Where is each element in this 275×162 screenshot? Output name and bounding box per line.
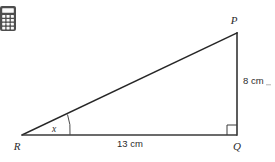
angle-arc-R bbox=[68, 115, 71, 136]
angle-label-x: x bbox=[51, 124, 57, 134]
diagram-canvas: P Q R x 8 cm 13 cm bbox=[0, 0, 275, 162]
triangle-hypotenuse-RP bbox=[22, 33, 237, 135]
vertex-label-p: P bbox=[230, 14, 238, 26]
vertex-label-q: Q bbox=[233, 140, 241, 152]
edge-tick-mark bbox=[266, 84, 271, 85]
vertex-label-r: R bbox=[13, 140, 21, 152]
side-label-horizontal: 13 cm bbox=[117, 138, 143, 149]
triangle-figure: P Q R x 8 cm 13 cm bbox=[0, 0, 275, 162]
side-label-vertical: 8 cm bbox=[243, 75, 264, 86]
right-angle-marker-Q bbox=[227, 125, 237, 135]
